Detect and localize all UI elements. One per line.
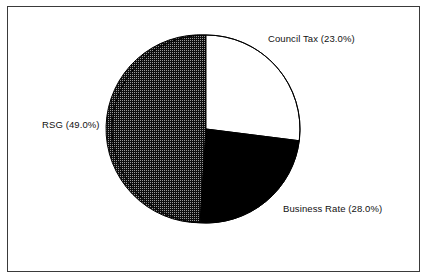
pie-slice-rsg — [106, 35, 206, 223]
pie-label-rsg: RSG (49.0%) — [42, 119, 100, 130]
pie-chart — [0, 0, 427, 278]
screenshot-root: Council Tax (23.0%) Business Rate (28.0%… — [0, 0, 427, 278]
pie-label-business-rate: Business Rate (28.0%) — [283, 203, 382, 214]
pie-slice-council-tax — [206, 35, 300, 141]
pie-label-council-tax: Council Tax (23.0%) — [268, 33, 355, 44]
